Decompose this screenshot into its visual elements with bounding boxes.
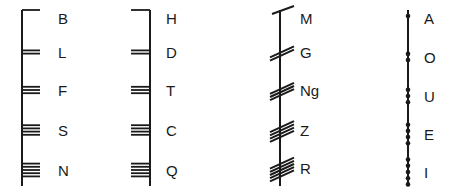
letter-ng-glyph (270, 83, 294, 100)
letter-label-ng: Ng (300, 83, 319, 98)
letter-label-c: C (166, 123, 177, 138)
letter-label-h: H (166, 11, 177, 26)
letter-c-glyph (131, 125, 150, 135)
letter-i-glyph (406, 157, 411, 186)
letter-label-q: Q (166, 163, 178, 178)
letter-label-f: F (58, 83, 67, 98)
letter-label-r: R (300, 161, 311, 176)
letter-u-glyph (406, 88, 411, 105)
letter-t-glyph (131, 87, 150, 93)
letter-label-i: I (424, 165, 428, 180)
aicme-ailme-group (406, 10, 411, 187)
letter-label-t: T (166, 83, 175, 98)
letter-q-glyph (131, 164, 150, 177)
letter-l-glyph (22, 50, 40, 53)
aicme-beithe-group (22, 10, 40, 186)
letter-n-glyph (22, 164, 40, 177)
letter-a-glyph (406, 14, 411, 19)
letter-label-l: L (58, 45, 66, 60)
letter-label-g: G (300, 45, 312, 60)
letter-f-glyph (22, 87, 40, 93)
letter-label-o: O (424, 50, 436, 65)
letter-label-s: S (58, 123, 68, 138)
letter-label-m: M (300, 11, 313, 26)
letter-label-u: U (424, 89, 435, 104)
letter-r-glyph (270, 158, 294, 182)
letter-label-e: E (424, 127, 434, 142)
letter-z-glyph (270, 121, 294, 142)
aicme-muine-group (270, 6, 294, 186)
letter-m-glyph (272, 6, 294, 14)
letter-s-glyph (22, 125, 40, 135)
letter-g-glyph (270, 46, 294, 60)
letter-d-glyph (131, 50, 150, 53)
aicme-huatha-group (131, 10, 150, 186)
letter-label-d: D (166, 45, 177, 60)
letter-label-a: A (424, 11, 434, 26)
letter-label-b: B (58, 11, 68, 26)
letter-label-z: Z (300, 123, 309, 138)
letter-label-n: N (58, 163, 69, 178)
